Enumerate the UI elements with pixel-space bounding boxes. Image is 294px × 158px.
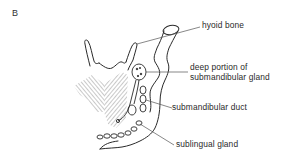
leader-sublingual-gland: [140, 124, 174, 145]
leader-lines: [137, 27, 200, 145]
leader-hyoid-bone: [137, 27, 200, 44]
label-sublingual-gland: sublingual gland: [176, 140, 238, 150]
leader-submandibular-duct: [146, 100, 172, 108]
label-submandibular-duct: submandibular duct: [172, 103, 247, 113]
label-hyoid-bone: hyoid bone: [202, 21, 244, 31]
label-deep-portion-line2: submandibular gland: [190, 73, 270, 83]
deep-portion-gland: [132, 64, 146, 80]
anatomical-figure: B: [0, 0, 294, 158]
